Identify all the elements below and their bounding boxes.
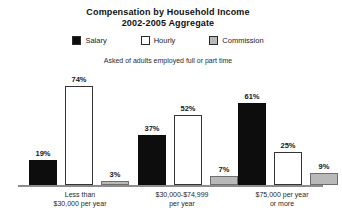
bar-group-0: 19% 74% 3% — [25, 73, 133, 185]
bar-slot-1-1: 52% — [170, 73, 206, 185]
legend-item-salary: Salary — [72, 36, 106, 45]
bar-hourly-0 — [65, 86, 93, 185]
bar-slot-1-0: 37% — [134, 73, 170, 185]
bar-slot-2-0: 61% — [234, 73, 270, 185]
bar-hourly-1 — [174, 115, 202, 185]
x-axis-baseline — [18, 185, 323, 187]
bar-value-label: 3% — [110, 170, 121, 179]
legend-label-commission: Commission — [222, 36, 263, 45]
bar-salary-2 — [238, 103, 266, 185]
chart-title-line-1: Compensation by Household Income — [0, 7, 336, 18]
legend-label-salary: Salary — [85, 36, 106, 45]
bar-value-label: 37% — [144, 124, 159, 133]
bar-value-label: 7% — [219, 165, 230, 174]
bar-slot-2-2: 9% — [306, 73, 342, 185]
legend-item-commission: Commission — [209, 36, 263, 45]
chart-title-line-2: 2002-2005 Aggregate — [0, 18, 336, 29]
legend-item-hourly: Hourly — [141, 36, 176, 45]
chart-subtitle: Asked of adults employed full or part ti… — [0, 56, 336, 65]
bar-value-label: 19% — [35, 149, 50, 158]
bar-group-1: 37% 52% 7% — [134, 73, 242, 185]
bar-value-label: 61% — [244, 92, 259, 101]
x-axis-label-2-line-2: or more — [222, 199, 342, 208]
x-axis-label-2-line-1: $75,000 per year — [222, 190, 342, 199]
bar-salary-0 — [29, 160, 57, 185]
bar-value-label: 52% — [180, 104, 195, 113]
bar-salary-1 — [138, 135, 166, 185]
bar-commission-0 — [101, 181, 129, 185]
x-axis-labels: Less than $30,000 per year $30,000-$74,9… — [0, 190, 336, 212]
bar-slot-0-1: 74% — [61, 73, 97, 185]
bar-value-label: 74% — [71, 75, 86, 84]
bar-slot-0-0: 19% — [25, 73, 61, 185]
legend-swatch-salary-icon — [72, 36, 81, 45]
x-axis-label-2: $75,000 per year or more — [222, 190, 342, 208]
bar-value-label: 9% — [319, 162, 330, 171]
bar-group-2: 61% 25% 9% — [234, 73, 342, 185]
bar-slot-2-1: 25% — [270, 73, 306, 185]
bar-slot-0-2: 3% — [97, 73, 133, 185]
chart-legend: Salary Hourly Commission — [0, 36, 336, 45]
bar-value-label: 25% — [280, 141, 295, 150]
legend-label-hourly: Hourly — [154, 36, 176, 45]
bar-commission-2 — [310, 173, 338, 185]
legend-swatch-hourly-icon — [141, 36, 150, 45]
plot-area: 19% 74% 3% 37% 52% 7% — [0, 72, 336, 186]
bar-hourly-2 — [274, 152, 302, 185]
legend-swatch-commission-icon — [209, 36, 218, 45]
chart-title: Compensation by Household Income 2002-20… — [0, 7, 336, 29]
